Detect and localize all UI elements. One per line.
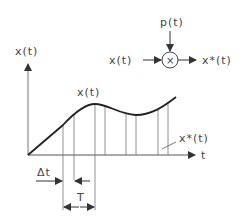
modulation-label: p(t) — [160, 16, 184, 29]
y-axis-label: x(t) — [15, 45, 38, 58]
sampling-diagram: p(t) × x(t) x*(t) x(t) t x(t) x*(t) — [0, 0, 250, 224]
multiplier-block: p(t) × x(t) x*(t) — [109, 16, 232, 68]
signal-curve — [28, 97, 176, 155]
curve-label: x(t) — [77, 86, 100, 99]
signal-plot: x(t) t x(t) x*(t) Δt T — [15, 45, 209, 210]
block-input-label: x(t) — [109, 54, 132, 67]
pulse-width-label: Δt — [37, 166, 51, 179]
sampled-label: x*(t) — [179, 132, 209, 145]
block-output-label: x*(t) — [202, 54, 232, 67]
sampled-label-leader — [162, 142, 176, 149]
multiplier-symbol: × — [166, 55, 174, 66]
period-label: T — [76, 191, 85, 204]
x-axis-label: t — [201, 149, 206, 162]
